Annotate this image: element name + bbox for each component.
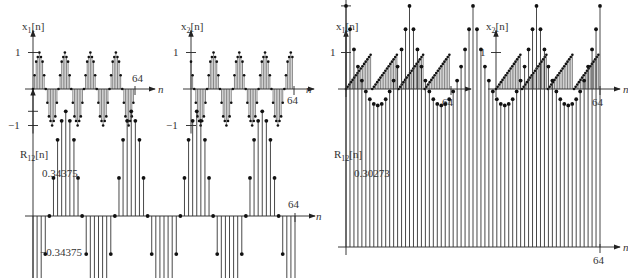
ytick-bottom: −0.34375 xyxy=(40,246,82,258)
ytick-top: 1 xyxy=(330,46,336,58)
plot-layer xyxy=(25,0,620,278)
ytick-top: 1 xyxy=(15,46,21,58)
xtick-64: 64 xyxy=(593,254,605,266)
y-axis-label: x2[n] xyxy=(486,20,508,35)
x-axis-label: n xyxy=(158,83,164,95)
x-axis-label: n xyxy=(623,241,628,253)
ytick-top: 0.30273 xyxy=(354,167,390,179)
ytick-bottom: −1 xyxy=(166,119,178,131)
xtick-64: 64 xyxy=(592,96,604,108)
x-axis-label: n xyxy=(316,210,322,222)
y-axis-label: x1[n] xyxy=(336,20,358,35)
ytick-bottom: −1 xyxy=(8,119,20,131)
xtick-64: 64 xyxy=(442,96,454,108)
y-axis-label: R12[n] xyxy=(20,148,48,163)
panel-x2-sawtooth: x2[n] 1 64 n xyxy=(480,20,628,108)
xtick-64: 64 xyxy=(287,94,299,106)
y-axis-label: x2[n] xyxy=(181,20,203,35)
figure-canvas: x1[n] 1 −1 64 n x2[n] 1 −1 64 n x1[n] 1 … xyxy=(0,0,628,278)
ytick-top: 0.34375 xyxy=(42,167,78,179)
xtick-64: 64 xyxy=(132,72,144,84)
ytick-top: 1 xyxy=(173,46,179,58)
xtick-64: 64 xyxy=(288,198,300,210)
x-axis-label: n xyxy=(623,83,628,95)
